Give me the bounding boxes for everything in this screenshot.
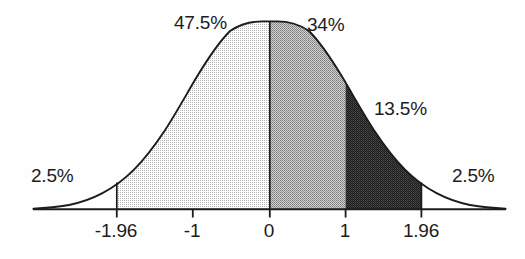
annotation-right-outer-percent: 13.5% — [374, 99, 427, 118]
annotation-right-inner-percent: 34% — [307, 15, 344, 34]
x-tick-label-pos1: 1 — [340, 221, 350, 240]
region-left-body — [117, 10, 271, 210]
x-tick-label-zero: 0 — [264, 221, 274, 240]
x-tick-label-pos196: 1.96 — [403, 221, 439, 240]
x-tick-label-neg196: -1.96 — [95, 221, 137, 240]
normal-distribution-chart: 2.5% 47.5% 34% 13.5% 2.5% -1.96 -1 0 1 1… — [0, 0, 525, 259]
region-right-inner — [270, 10, 346, 210]
annotation-left-tail-percent: 2.5% — [31, 166, 74, 185]
distribution-regions — [30, 10, 512, 210]
annotation-right-tail-percent: 2.5% — [452, 166, 495, 185]
x-tick-label-neg1: -1 — [184, 221, 201, 240]
chart-canvas — [0, 0, 525, 259]
annotation-left-body-percent: 47.5% — [174, 13, 227, 32]
